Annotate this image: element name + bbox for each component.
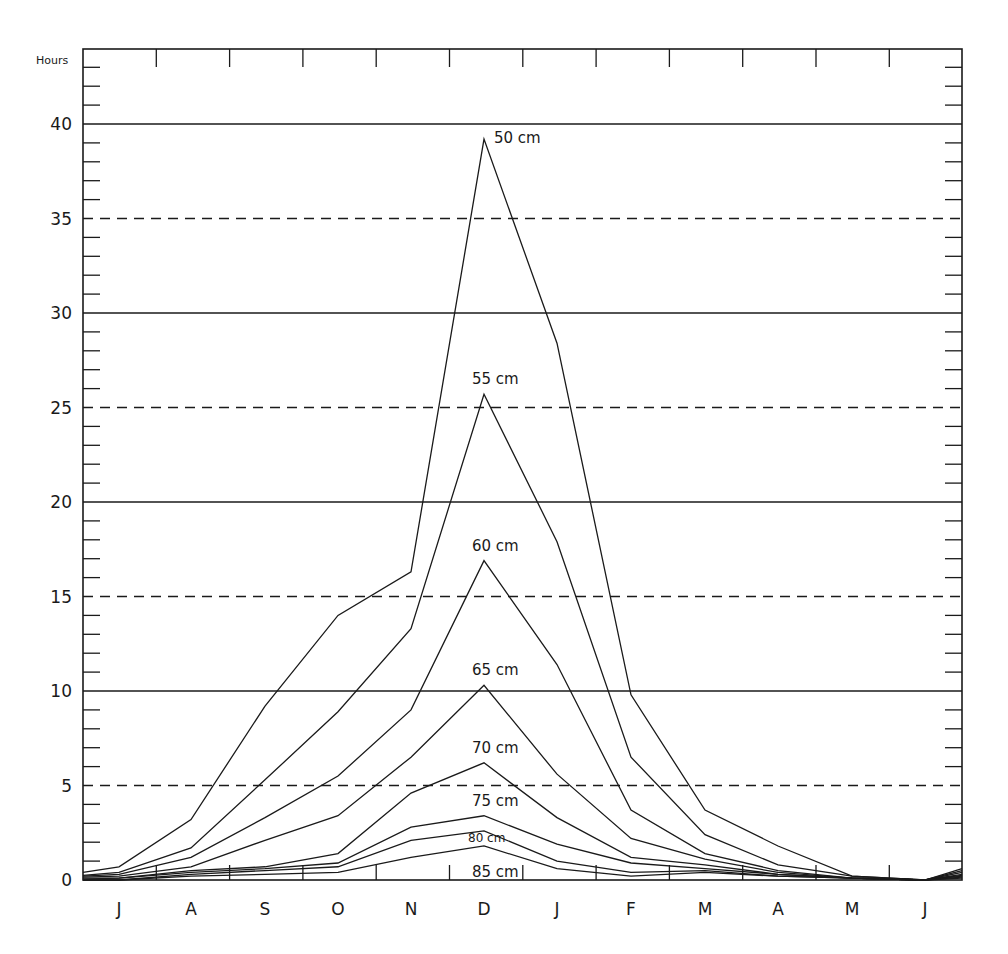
y-tick-label: 15 xyxy=(50,587,72,607)
y-tick-label: 30 xyxy=(50,303,72,323)
series-label: 70 cm xyxy=(472,739,519,757)
x-tick-label: J xyxy=(553,899,559,919)
series-label: 80 cm xyxy=(468,831,505,845)
line-chart: 0510152025303540 Hours JASONDJFMAMJ 50 c… xyxy=(0,0,1008,954)
series-labels: 50 cm55 cm60 cm65 cm70 cm75 cm80 cm85 cm xyxy=(468,129,541,881)
x-tick-label: M xyxy=(698,899,713,919)
x-tick-label: A xyxy=(772,899,784,919)
y-tick-label: 25 xyxy=(50,398,72,418)
grid-lines xyxy=(83,124,962,786)
y-axis-title: Hours xyxy=(36,54,68,67)
series-line xyxy=(83,139,962,880)
y-tick-label: 40 xyxy=(50,114,72,134)
series-label: 85 cm xyxy=(472,863,519,881)
series-label: 65 cm xyxy=(472,661,519,679)
y-minor-ticks xyxy=(83,67,962,861)
series-line xyxy=(83,763,962,880)
series-label: 50 cm xyxy=(494,129,541,147)
x-tick-label: F xyxy=(626,899,636,919)
x-tick-label: M xyxy=(845,899,860,919)
y-tick-label: 10 xyxy=(50,681,72,701)
y-tick-label: 20 xyxy=(50,492,72,512)
plot-frame xyxy=(83,49,962,880)
y-tick-label: 0 xyxy=(61,870,72,890)
series-label: 55 cm xyxy=(472,370,519,388)
x-tick-label: J xyxy=(115,899,121,919)
series-label: 75 cm xyxy=(472,792,519,810)
x-tick-label: S xyxy=(260,899,271,919)
x-axis-month-labels: JASONDJFMAMJ xyxy=(115,899,927,919)
series-line xyxy=(83,394,962,880)
x-month-ticks xyxy=(156,49,889,880)
y-tick-label: 5 xyxy=(61,776,72,796)
x-tick-label: N xyxy=(405,899,418,919)
series-line xyxy=(83,561,962,880)
x-tick-label: A xyxy=(185,899,197,919)
series-label: 60 cm xyxy=(472,537,519,555)
series-lines xyxy=(83,139,962,880)
x-tick-label: J xyxy=(921,899,927,919)
x-tick-label: O xyxy=(331,899,344,919)
y-axis-tick-labels: 0510152025303540 xyxy=(50,114,72,890)
y-tick-label: 35 xyxy=(50,209,72,229)
x-tick-label: D xyxy=(477,899,490,919)
